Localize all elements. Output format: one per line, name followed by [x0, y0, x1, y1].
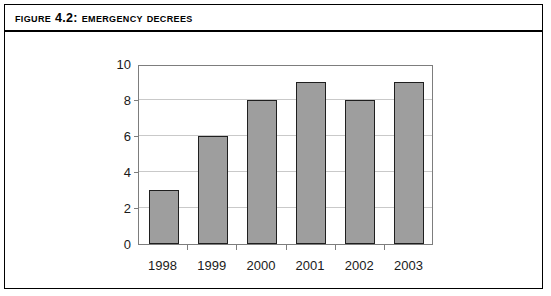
x-tick-mark — [236, 245, 237, 250]
y-tick-label: 2 — [124, 201, 131, 216]
y-tick-label: 6 — [124, 129, 131, 144]
bar-2000 — [247, 100, 277, 244]
y-tick-label: 10 — [117, 57, 131, 72]
bar-1998 — [149, 190, 179, 244]
x-tick-mark — [187, 245, 188, 250]
x-axis: 199819992000200120022003 — [138, 245, 433, 291]
plot-area: 0246810 — [138, 65, 433, 245]
x-tick-label-1999: 1999 — [197, 258, 226, 273]
x-tick-label-2001: 2001 — [296, 258, 325, 273]
bar-series — [139, 66, 432, 244]
x-tick-label-2002: 2002 — [345, 258, 374, 273]
x-tick-mark — [384, 245, 385, 250]
y-tick-label: 0 — [124, 237, 131, 252]
figure-title-band: Figure 4.2: Emergency decrees — [5, 5, 542, 32]
x-tick-mark — [335, 245, 336, 250]
y-tick-label: 4 — [124, 165, 131, 180]
bar-2001 — [296, 82, 326, 244]
x-tick-label-2000: 2000 — [246, 258, 275, 273]
bar-2002 — [345, 100, 375, 244]
bar-2003 — [394, 82, 424, 244]
figure-container: Figure 4.2: Emergency decrees 0246810 19… — [4, 4, 543, 289]
y-tick-label: 8 — [124, 93, 131, 108]
bar-1999 — [198, 136, 228, 244]
page-title: Figure 4.2: Emergency decrees — [5, 11, 193, 25]
x-tick-mark — [286, 245, 287, 250]
x-tick-label-2003: 2003 — [394, 258, 423, 273]
x-tick-label-1998: 1998 — [148, 258, 177, 273]
chart-canvas: 0246810 199819992000200120022003 — [5, 32, 542, 288]
